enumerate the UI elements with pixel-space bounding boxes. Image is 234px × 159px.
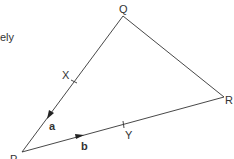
point-label-x: X — [62, 69, 70, 81]
tick-y — [123, 121, 124, 128]
vertex-label-p: P — [10, 153, 17, 159]
triangle-diagram: ely Q R P X Y a b — [0, 0, 234, 159]
arrow-b-icon — [75, 134, 84, 139]
edge-pq — [22, 16, 123, 152]
vector-label-b: b — [81, 140, 88, 152]
edge-qr — [123, 16, 224, 97]
fragment-text: ely — [0, 31, 15, 43]
vertex-label-r: R — [225, 94, 233, 106]
vertex-label-q: Q — [119, 3, 128, 15]
vector-label-a: a — [49, 120, 56, 132]
point-label-y: Y — [125, 129, 133, 141]
arrow-a-icon — [47, 110, 54, 119]
